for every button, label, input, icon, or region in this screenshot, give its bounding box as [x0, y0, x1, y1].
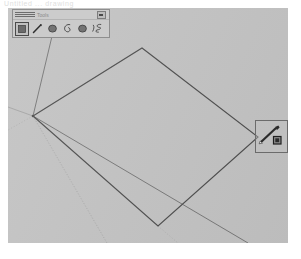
cursor-preview-box[interactable]	[255, 120, 288, 153]
close-icon[interactable]	[97, 11, 106, 19]
palette-drag-grip[interactable]	[15, 12, 35, 17]
dotted-guide-bottom	[158, 226, 178, 243]
filled-circle-icon	[47, 23, 58, 34]
clipped-header-text: Untitled ... drawing	[4, 0, 204, 8]
quadrilateral-shape[interactable]	[33, 48, 258, 226]
outline-teardrop-icon	[62, 23, 73, 34]
tool-button-freehand-curve[interactable]	[90, 22, 104, 36]
guide-line-left-edge	[8, 107, 33, 116]
tool-button-fill-rectangle[interactable]	[15, 22, 29, 36]
dotted-guide-vertical	[33, 116, 107, 243]
pencil-with-square-icon	[256, 121, 287, 152]
filled-circle-icon	[77, 23, 88, 34]
palette-title-label: Tools	[35, 12, 97, 18]
palette-tool-row	[13, 20, 109, 37]
palette-titlebar[interactable]: Tools	[13, 10, 109, 20]
tool-button-line[interactable]	[30, 22, 44, 36]
guide-line-lower-right	[33, 116, 248, 243]
dotted-guide-left	[8, 116, 33, 130]
tool-button-outline-blob[interactable]	[60, 22, 74, 36]
vertex-node-left	[32, 115, 35, 118]
filled-square-icon	[17, 24, 27, 34]
canvas-vector-layer	[8, 8, 288, 243]
tool-palette[interactable]: Tools	[12, 9, 110, 38]
squiggle-icon	[91, 23, 103, 34]
guide-line-upper-left	[33, 32, 53, 116]
app-root: Untitled ... drawing Tools	[0, 0, 301, 259]
drawing-canvas[interactable]	[8, 8, 288, 243]
pencil-line-icon	[32, 23, 43, 34]
tool-button-filled-blob[interactable]	[75, 22, 89, 36]
tool-button-filled-ellipse[interactable]	[45, 22, 59, 36]
